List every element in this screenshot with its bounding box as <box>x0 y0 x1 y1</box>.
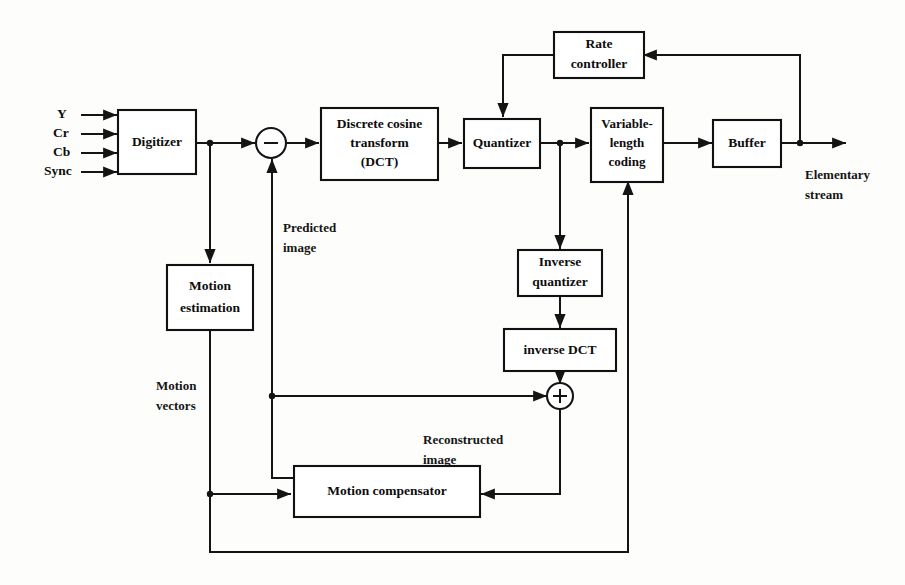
annotation-predicted-image-line2: image <box>283 240 316 255</box>
junction-motion-vectors <box>207 491 213 497</box>
input-label-cb: Cb <box>53 144 70 159</box>
encoder-block-diagram: Y Cr Cb Sync <box>0 0 905 585</box>
dct-label-line3: (DCT) <box>361 154 399 169</box>
block-buffer[interactable]: Buffer <box>713 120 781 167</box>
input-label-cr: Cr <box>53 125 69 140</box>
motion-estimation-box <box>167 265 253 330</box>
buffer-label: Buffer <box>728 135 766 150</box>
input-arrows <box>82 115 116 172</box>
block-digitizer[interactable]: Digitizer <box>118 110 196 174</box>
output-label-elementary-stream-line2: stream <box>805 187 843 202</box>
junction-digitizer-out <box>207 140 213 146</box>
vlc-label-line2: length <box>610 135 645 150</box>
motion-compensator-label: Motion compensator <box>327 483 447 498</box>
inverse-dct-label: inverse DCT <box>523 342 596 357</box>
quantizer-label: Quantizer <box>473 135 532 150</box>
annotation-motion-vectors-line1: Motion <box>156 378 197 393</box>
dct-label-line1: Discrete cosine <box>337 116 423 131</box>
annotation-reconstructed-image-line2: image <box>423 452 456 467</box>
block-variable-length-coding[interactable]: Variable- length coding <box>591 108 663 182</box>
input-label-y: Y <box>57 106 67 121</box>
inverse-quantizer-label-line2: quantizer <box>532 274 588 289</box>
rate-controller-label-line2: controller <box>571 56 628 71</box>
block-quantizer[interactable]: Quantizer <box>464 119 540 168</box>
inverse-quantizer-label-line1: Inverse <box>539 254 582 269</box>
block-inverse-dct[interactable]: inverse DCT <box>504 329 616 371</box>
dct-label-line2: transform <box>350 135 409 150</box>
adder-node[interactable] <box>547 383 573 409</box>
annotation-predicted-image-line1: Predicted <box>283 220 337 235</box>
rate-controller-label-line1: Rate <box>586 36 613 51</box>
motion-estimation-label-line2: estimation <box>180 300 240 315</box>
block-motion-compensator[interactable]: Motion compensator <box>294 466 480 517</box>
vlc-label-line1: Variable- <box>601 116 653 131</box>
motion-estimation-label-line1: Motion <box>189 278 231 293</box>
block-inverse-quantizer[interactable]: Inverse quantizer <box>518 250 602 296</box>
annotation-reconstructed-image-line1: Reconstructed <box>423 432 504 447</box>
wire-adder-to-motion-compensator <box>482 409 560 494</box>
vlc-label-line3: coding <box>609 154 646 169</box>
wire-motion-compensator-output <box>272 396 294 478</box>
diagram-canvas: Y Cr Cb Sync <box>0 0 905 585</box>
wire-rate-controller-to-quantizer <box>503 55 554 116</box>
block-motion-estimation[interactable]: Motion estimation <box>167 265 253 330</box>
output-label-elementary-stream-line1: Elementary <box>805 167 870 182</box>
input-label-sync: Sync <box>44 163 72 178</box>
annotation-motion-vectors-line2: vectors <box>156 398 196 413</box>
subtractor-node[interactable] <box>256 128 286 158</box>
digitizer-label: Digitizer <box>132 134 182 149</box>
block-rate-controller[interactable]: Rate controller <box>554 32 644 78</box>
block-dct[interactable]: Discrete cosine transform (DCT) <box>321 108 438 180</box>
